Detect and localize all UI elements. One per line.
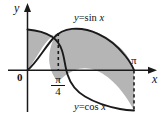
y-axis-label: y <box>14 2 19 14</box>
cosine-label-fn: cos <box>85 101 99 112</box>
x-axis-label: x <box>152 73 157 85</box>
math-figure: y x 0 π 4 π y=sin x y=cos x <box>0 0 166 123</box>
cosine-label-var: x <box>101 101 106 112</box>
x-tick-label-pi-over-4: π 4 <box>50 74 66 97</box>
origin-label: 0 <box>17 72 23 83</box>
curve-label-sine: y=sin x <box>74 13 104 24</box>
x-tick-label-pi: π <box>131 55 137 66</box>
sine-label-var: x <box>99 12 104 23</box>
y-axis-arrow <box>24 3 31 12</box>
x-tick-pi-over-4-denominator: 4 <box>50 86 66 97</box>
x-tick-pi-over-4-numerator: π <box>50 74 66 85</box>
curve-label-cosine: y=cos x <box>74 102 106 113</box>
sine-label-fn: sin <box>85 12 97 23</box>
